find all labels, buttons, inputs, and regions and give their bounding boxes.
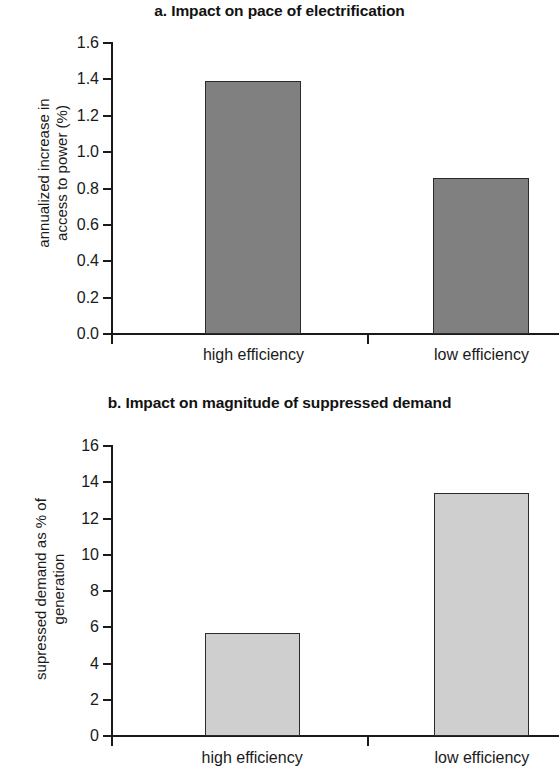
chart-a-y-tick-label: 0.6 [77, 217, 99, 233]
chart-b-x-category-label: low efficiency [435, 749, 530, 767]
chart-b-y-tick-label: 14 [81, 474, 99, 490]
chart-a-y-tick-label: 0.4 [77, 253, 99, 269]
chart-a-y-tick-label: 1.4 [77, 71, 99, 87]
chart-a-y-tick [103, 333, 111, 335]
chart-b-y-tick-label: 12 [81, 511, 99, 527]
chart-a-y-tick [103, 260, 111, 262]
chart-b-x-tick [367, 737, 369, 746]
chart-b-bar [205, 633, 300, 736]
chart-b-y-tick [103, 590, 111, 592]
chart-panel-a: a. Impact on pace of electrification ann… [0, 0, 559, 392]
chart-b-y-tick [103, 663, 111, 665]
chart-a-y-tick-label: 1.6 [77, 35, 99, 51]
chart-a-x-tick [367, 335, 369, 344]
chart-a-y-tick-label: 0.8 [77, 181, 99, 197]
chart-b-y-axis-line [111, 445, 113, 737]
chart-a-y-tick [103, 42, 111, 44]
chart-a-y-tick-label: 1.2 [77, 108, 99, 124]
chart-a-x-category-label: high efficiency [203, 346, 304, 364]
chart-a-y-tick [103, 115, 111, 117]
chart-a-y-tick [103, 151, 111, 153]
chart-b-bar [434, 493, 529, 736]
chart-a-y-axis-line [111, 42, 113, 335]
chart-b-y-tick [103, 518, 111, 520]
chart-a-x-tick [111, 335, 113, 344]
chart-a-y-tick [103, 224, 111, 226]
chart-a-plot-area: 0.00.20.40.60.81.01.21.41.6 [111, 42, 559, 335]
chart-b-y-tick-label: 8 [90, 583, 99, 599]
chart-b-title: b. Impact on magnitude of suppressed dem… [0, 394, 559, 412]
chart-b-y-tick [103, 481, 111, 483]
chart-b-y-tick-label: 2 [90, 692, 99, 708]
chart-b-x-tick [111, 737, 113, 746]
chart-a-x-category-label: low efficiency [434, 346, 529, 364]
chart-b-x-category-label: high efficiency [202, 749, 303, 767]
chart-b-y-tick [103, 626, 111, 628]
chart-b-y-axis-label: supressed demand as % of generation [32, 464, 74, 714]
chart-b-y-tick [103, 445, 111, 447]
chart-b-y-tick-label: 4 [90, 656, 99, 672]
chart-b-y-tick-label: 10 [81, 547, 99, 563]
chart-a-y-axis-label: annualized increase in access to power (… [35, 48, 77, 298]
chart-a-y-tick [103, 78, 111, 80]
chart-b-y-tick-label: 0 [90, 728, 99, 744]
chart-b-plot-area: 0246810121416 [111, 445, 559, 737]
figure-canvas: a. Impact on pace of electrification ann… [0, 0, 559, 784]
chart-a-y-tick-label: 1.0 [77, 144, 99, 160]
chart-a-y-tick [103, 188, 111, 190]
chart-b-y-tick-label: 6 [90, 619, 99, 635]
chart-a-bar [433, 178, 529, 334]
chart-panel-b: b. Impact on magnitude of suppressed dem… [0, 392, 559, 784]
chart-b-y-tick [103, 735, 111, 737]
chart-b-y-tick [103, 554, 111, 556]
chart-a-title: a. Impact on pace of electrification [0, 2, 559, 20]
chart-a-y-tick [103, 297, 111, 299]
chart-b-y-tick [103, 699, 111, 701]
chart-a-bar [205, 81, 301, 334]
chart-a-y-tick-label: 0.2 [77, 290, 99, 306]
chart-b-y-tick-label: 16 [81, 438, 99, 454]
chart-a-y-tick-label: 0.0 [77, 326, 99, 342]
